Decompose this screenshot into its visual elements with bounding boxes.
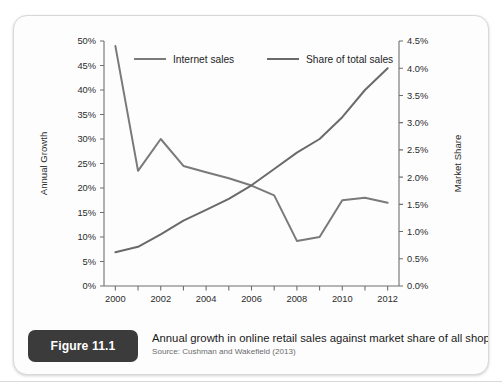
right-axis-tick-label: 1.5%: [407, 200, 428, 210]
figure-card: 0%5%10%15%20%25%30%35%40%45%50%0.0%0.5%1…: [13, 15, 489, 375]
series-line-1: [115, 46, 387, 241]
left-axis-tick-label: 50%: [77, 36, 96, 46]
legend-label-2: Share of total sales: [306, 54, 393, 65]
left-axis-tick-label: 45%: [77, 61, 96, 71]
right-axis-tick-label: 3.5%: [407, 91, 428, 101]
caption-source: Source: Cushman and Wakefield (2013): [152, 347, 489, 356]
right-axis-tick-label: 0.5%: [407, 254, 428, 264]
x-axis-tick-label: 2012: [377, 294, 398, 304]
right-axis-tick-label: 2.0%: [407, 173, 428, 183]
caption-title: Annual growth in online retail sales aga…: [152, 331, 489, 345]
left-axis-tick-label: 25%: [77, 159, 96, 169]
x-axis-tick-label: 2004: [196, 294, 217, 304]
right-axis-tick-label: 2.5%: [407, 145, 428, 155]
x-axis-tick-label: 2008: [287, 294, 308, 304]
caption-text-block: Annual growth in online retail sales aga…: [152, 331, 489, 356]
left-axis-tick-label: 20%: [77, 183, 96, 193]
left-axis-tick-label: 0%: [83, 281, 96, 291]
figure-page: 0%5%10%15%20%25%30%35%40%45%50%0.0%0.5%1…: [0, 0, 502, 389]
left-axis-tick-label: 40%: [77, 85, 96, 95]
left-axis-tick-label: 15%: [77, 208, 96, 218]
dual-axis-line-chart: 0%5%10%15%20%25%30%35%40%45%50%0.0%0.5%1…: [14, 16, 489, 321]
right-axis-title: Market Share: [452, 135, 463, 193]
right-axis-tick-label: 4.0%: [407, 64, 428, 74]
x-axis-tick-label: 2006: [241, 294, 262, 304]
right-axis-tick-label: 1.0%: [407, 227, 428, 237]
page-bottom-rule: [0, 381, 502, 382]
x-axis-tick-label: 2000: [105, 294, 126, 304]
right-axis-tick-label: 4.5%: [407, 36, 428, 46]
right-axis-tick-label: 3.0%: [407, 118, 428, 128]
right-axis-tick-label: 0.0%: [407, 281, 428, 291]
left-axis-title: Annual Growth: [38, 132, 49, 195]
left-axis-tick-label: 10%: [77, 232, 96, 242]
x-axis-tick-label: 2002: [150, 294, 171, 304]
left-axis-tick-label: 30%: [77, 134, 96, 144]
left-axis-tick-label: 35%: [77, 110, 96, 120]
figure-number-badge: Figure 11.1: [28, 330, 138, 362]
figure-caption: Figure 11.1 Annual growth in online reta…: [14, 321, 489, 375]
legend-label-1: Internet sales: [173, 54, 234, 65]
left-axis-tick-label: 5%: [83, 257, 96, 267]
series-line-2: [115, 68, 387, 252]
chart-plot-area: 0%5%10%15%20%25%30%35%40%45%50%0.0%0.5%1…: [14, 16, 489, 321]
figure-number-label: Figure 11.1: [51, 339, 116, 353]
x-axis-tick-label: 2010: [332, 294, 353, 304]
